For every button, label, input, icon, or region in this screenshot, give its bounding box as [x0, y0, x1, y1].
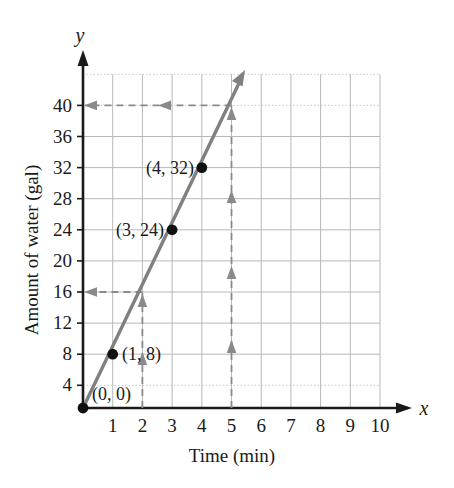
y-axis-variable-label: y [74, 24, 85, 47]
point-label-origin: (0, 0) [92, 384, 131, 405]
chart-figure: 40 36 32 28 24 20 16 12 8 4 1 2 3 4 5 6 … [0, 0, 454, 488]
y-tick-label: 16 [53, 281, 72, 302]
point-label-1-8: (1, 8) [122, 344, 161, 365]
line-chart: 40 36 32 28 24 20 16 12 8 4 1 2 3 4 5 6 … [0, 0, 454, 488]
guide-arrow-up-icon [227, 266, 237, 279]
x-tick-label: 3 [167, 415, 177, 436]
x-tick-label: 6 [256, 415, 266, 436]
y-tick-label: 8 [63, 343, 73, 364]
guide-arrow-up-icon [227, 190, 237, 203]
x-tick-label: 7 [286, 415, 296, 436]
data-line [83, 70, 245, 408]
data-point [107, 349, 118, 360]
data-point [78, 403, 89, 414]
x-tick-label: 1 [108, 415, 118, 436]
x-axis-title: Time (min) [189, 445, 275, 467]
y-tick-label: 24 [53, 219, 73, 240]
x-tick-label: 9 [346, 415, 356, 436]
x-axis-arrow-icon [396, 403, 412, 414]
point-label-3-24: (3, 24) [116, 220, 164, 241]
guide-arrow-up-icon [138, 294, 148, 307]
point-label-4-32: (4, 32) [146, 158, 194, 179]
y-tick-labels: 40 36 32 28 24 20 16 12 8 4 [53, 95, 73, 395]
y-tick-label: 40 [53, 95, 72, 116]
guide-arrow-left-icon [84, 287, 97, 297]
y-tick-label: 4 [63, 374, 73, 395]
y-tick-label: 28 [53, 188, 72, 209]
x-tick-label: 8 [316, 415, 326, 436]
data-point [196, 162, 207, 173]
x-axis-variable-label: x [419, 397, 429, 419]
x-tick-label: 5 [227, 415, 237, 436]
data-point [167, 224, 178, 235]
guide-arrow-left-icon [158, 101, 171, 111]
y-tick-label: 12 [53, 312, 72, 333]
x-tick-label: 2 [138, 415, 148, 436]
y-axis-arrow-icon [78, 50, 89, 66]
line-arrow-end-icon [232, 70, 245, 87]
guide-arrow-up-icon [227, 340, 237, 353]
guide-arrow-left-icon [84, 101, 97, 111]
x-tick-label: 10 [371, 415, 390, 436]
y-tick-label: 32 [53, 157, 72, 178]
x-tick-labels: 1 2 3 4 5 6 7 8 9 10 [108, 415, 390, 436]
y-tick-label: 20 [53, 250, 72, 271]
y-axis-title: Amount of water (gal) [21, 165, 43, 335]
y-tick-label: 36 [53, 126, 72, 147]
x-tick-label: 4 [197, 415, 207, 436]
